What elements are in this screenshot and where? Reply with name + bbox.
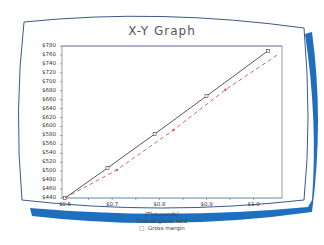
legend-margin-label: Gross margin [148, 225, 185, 231]
square-marker-icon: □ [139, 225, 144, 231]
x-tick-label: $0.9 [195, 201, 219, 207]
y-tick-label: $780 [22, 42, 56, 48]
y-tick-label: $540 [22, 149, 56, 155]
x-tick-label: $0.7 [100, 201, 124, 207]
y-tick-label: $700 [22, 78, 56, 84]
y-tick-label: $620 [22, 114, 56, 120]
y-tick-label: $500 [22, 167, 56, 173]
y-tick-label: $440 [22, 194, 56, 200]
crt-screen: X-Y Graph $780$760$740$720$700$680$660$6… [0, 0, 324, 245]
y-tick-label: $580 [22, 131, 56, 137]
x-tick-label: $0.6 [53, 201, 77, 207]
y-tick-label: $460 [22, 185, 56, 191]
y-tick-label: $600 [22, 122, 56, 128]
y-tick-label: $660 [22, 96, 56, 102]
y-tick-label: $740 [22, 60, 56, 66]
y-tick-label: $640 [22, 105, 56, 111]
y-tick-label: $720 [22, 69, 56, 75]
x-tick-label: $0.8 [147, 201, 171, 207]
x-axis-units: (Thousands) [0, 211, 324, 217]
y-tick-label: $760 [22, 51, 56, 57]
y-tick-label: $560 [22, 140, 56, 146]
legend-item-margin: □ Gross margin [0, 225, 324, 231]
legend-item-cost: Cost of goods sold [0, 218, 324, 224]
y-tick-label: $480 [22, 176, 56, 182]
x-tick-label: $1.0 [242, 201, 266, 207]
y-tick-label: $520 [22, 158, 56, 164]
y-tick-label: $680 [22, 87, 56, 93]
